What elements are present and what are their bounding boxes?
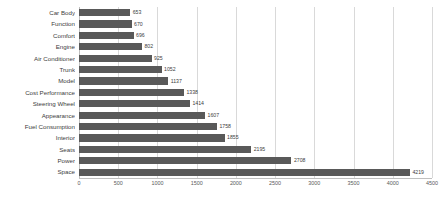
bar-row: Air Conditioner925 (0, 53, 439, 64)
bar-value-label: 1414 (192, 100, 204, 107)
bar-container: 670 (79, 18, 143, 29)
bar (79, 43, 142, 50)
x-tick-label: 2500 (269, 180, 281, 186)
bar-value-label: 2708 (294, 157, 306, 164)
bar-container: 2195 (79, 144, 265, 155)
bar-row: Steering Wheel1414 (0, 98, 439, 109)
bar-value-label: 4219 (412, 169, 424, 176)
bar (79, 157, 291, 164)
x-tick-label: 3500 (348, 180, 360, 186)
bar-value-label: 1855 (227, 134, 239, 141)
bar-row: Engine802 (0, 41, 439, 52)
bar-container: 925 (79, 53, 163, 64)
category-label: Function (0, 18, 75, 29)
bar-container: 1414 (79, 98, 204, 109)
category-label: Steering Wheel (0, 98, 75, 109)
bar-container: 2708 (79, 155, 305, 166)
bar-row: Appearance1607 (0, 110, 439, 121)
bar-value-label: 2195 (254, 146, 266, 153)
bar-container: 1855 (79, 132, 239, 143)
bar-row: Function670 (0, 18, 439, 29)
bar-value-label: 1137 (171, 78, 182, 85)
bar-row: Comfort696 (0, 30, 439, 41)
x-tick-label: 4500 (426, 180, 438, 186)
x-tick-label: 3000 (308, 180, 320, 186)
x-axis-line (79, 178, 432, 179)
bar-value-label: 1052 (164, 66, 176, 73)
x-axis-tick-labels: 050010001500200025003000350040004500 (79, 180, 432, 194)
bar (79, 66, 162, 73)
bar-chart: Car Body653Function670Comfort696Engine80… (0, 0, 439, 200)
bar-value-label: 653 (133, 9, 142, 16)
bar (79, 77, 168, 84)
bar-rows: Car Body653Function670Comfort696Engine80… (0, 7, 439, 178)
category-label: Cost Performance (0, 87, 75, 98)
bar-container: 696 (79, 30, 145, 41)
bar-row: Trunk1052 (0, 64, 439, 75)
category-label: Car Body (0, 7, 75, 18)
bar (79, 9, 130, 16)
bar-value-label: 925 (154, 55, 163, 62)
bar-container: 1137 (79, 75, 182, 86)
category-label: Comfort (0, 30, 75, 41)
category-label: Trunk (0, 64, 75, 75)
bar-row: Car Body653 (0, 7, 439, 18)
bar-container: 653 (79, 7, 141, 18)
bar-row: Space4219 (0, 166, 439, 177)
category-label: Air Conditioner (0, 53, 75, 64)
bar-container: 802 (79, 41, 153, 52)
bar (79, 55, 152, 62)
bar-value-label: 1607 (208, 112, 220, 119)
bar-value-label: 1338 (186, 89, 198, 96)
bar-value-label: 802 (144, 43, 153, 50)
x-tick-label: 0 (78, 180, 81, 186)
category-label: Appearance (0, 110, 75, 121)
bar (79, 169, 410, 176)
bar-row: Seats2195 (0, 144, 439, 155)
bar (79, 32, 134, 39)
bar-value-label: 696 (136, 32, 145, 39)
bar (79, 100, 190, 107)
x-tick-label: 500 (114, 180, 123, 186)
bar-container: 1338 (79, 87, 198, 98)
bar-row: Model1137 (0, 75, 439, 86)
category-label: Model (0, 75, 75, 86)
bar (79, 89, 184, 96)
bar-container: 4219 (79, 166, 424, 177)
bar-row: Cost Performance1338 (0, 87, 439, 98)
category-label: Interior (0, 132, 75, 143)
category-label: Power (0, 155, 75, 166)
x-tick-label: 2000 (230, 180, 242, 186)
x-tick-label: 4000 (387, 180, 399, 186)
bar (79, 123, 217, 130)
bar-row: Power2708 (0, 155, 439, 166)
bar-value-label: 1758 (219, 123, 231, 130)
bar-row: Fuel Consumption1758 (0, 121, 439, 132)
category-label: Fuel Consumption (0, 121, 75, 132)
bar (79, 146, 251, 153)
x-tick-label: 1000 (151, 180, 163, 186)
bar (79, 20, 132, 27)
bar-value-label: 670 (134, 21, 143, 28)
bar-container: 1758 (79, 121, 231, 132)
category-label: Seats (0, 144, 75, 155)
bar (79, 112, 205, 119)
x-tick-label: 1500 (191, 180, 203, 186)
bar-row: Interior1855 (0, 132, 439, 143)
category-label: Space (0, 166, 75, 177)
bar-container: 1052 (79, 64, 176, 75)
bar-container: 1607 (79, 110, 219, 121)
category-label: Engine (0, 41, 75, 52)
bar (79, 134, 225, 141)
